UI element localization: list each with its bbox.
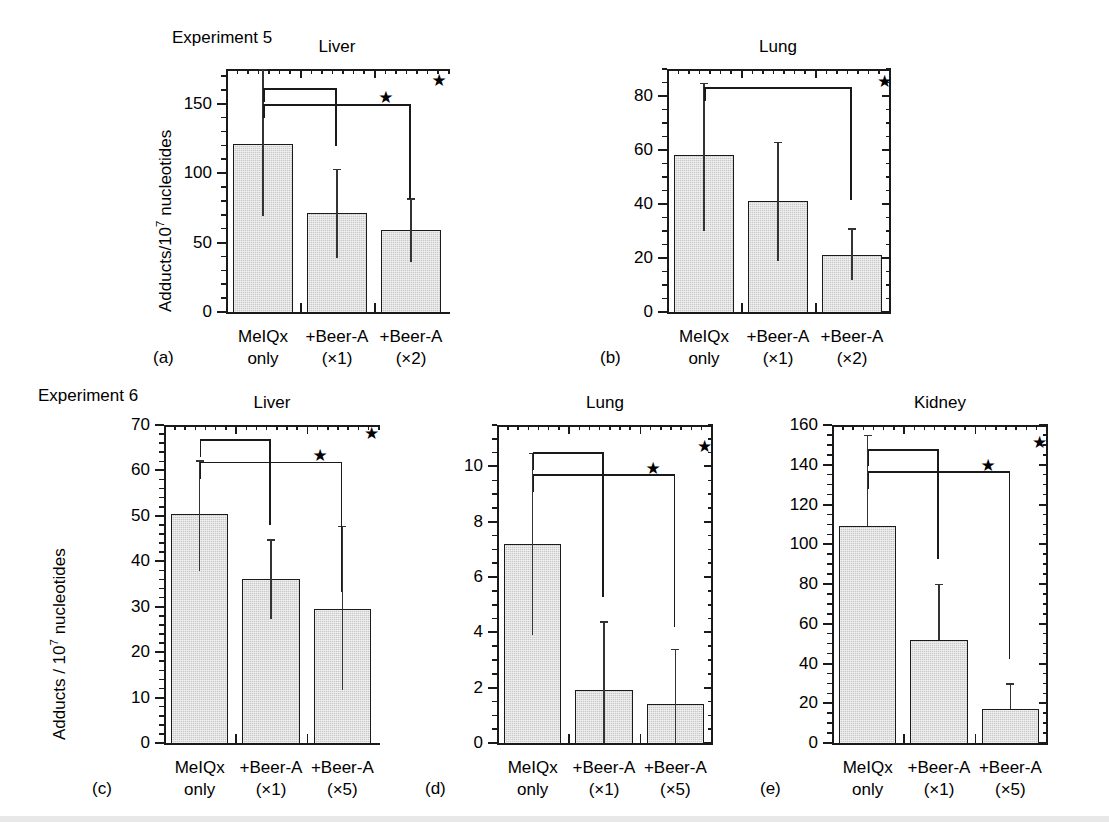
significance-bracket-right-drop [1009,471,1011,659]
y-tick-label: 6 [474,567,483,587]
significance-star: ★ [697,437,712,454]
x-tick-major [300,303,302,312]
top-tick-minor [427,69,429,74]
y-tick-label: 0 [644,302,653,322]
y-tick-minor [159,579,164,581]
error-bar-cap [774,142,782,143]
significance-bracket-left-tick [704,87,706,100]
x-category-label-line: (×5) [311,779,374,801]
y-tick-minor-right [1043,553,1048,555]
x-category-label-line: +Beer-A [306,326,369,348]
top-tick-minor [237,69,239,74]
y-tick-label: 0 [474,733,483,753]
y-axis-line [832,425,834,745]
y-tick-minor [159,733,164,735]
x-category-label-line: MeIQx [843,757,893,779]
error-bar [851,228,853,279]
y-tick-minor-right [886,176,891,178]
y-tick-major [488,576,497,578]
y-tick-minor [221,131,226,133]
significance-bracket-bar [533,452,604,454]
y-tick-minor [159,615,164,617]
y-tick-major [658,149,667,151]
y-axis-title-exponent: 7 [154,221,166,227]
x-category-label: +Beer-A(×1) [747,326,810,370]
x-category-label: +Beer-A(×1) [908,757,971,801]
y-tick-minor [827,553,832,555]
y-tick-major [823,543,832,545]
significance-bracket-bar [533,474,676,476]
y-tick-minor-right [1043,563,1048,565]
y-tick-label: 20 [131,642,150,662]
y-tick-minor [492,549,497,551]
x-category-label-line: MeIQx [679,326,729,348]
top-tick-minor [174,425,176,430]
y-tick-minor [492,659,497,661]
top-tick-major [568,425,570,434]
top-tick-minor [286,425,288,430]
top-tick-minor [528,425,530,430]
y-tick-major [823,623,832,625]
top-tick-minor [773,69,775,74]
y-tick-minor [662,163,667,165]
top-tick-minor [266,425,268,430]
error-bar [675,649,677,743]
x-category-label: +Beer-A(×2) [380,326,443,370]
y-tick-minor [827,444,832,446]
top-tick-minor [538,425,540,430]
x-tick-major [374,303,376,312]
y-tick-minor [221,256,226,258]
y-tick-minor [159,524,164,526]
top-tick-minor [857,69,859,74]
y-tick-label: 8 [474,512,483,532]
significance-bracket-left-tick [868,471,870,488]
y-tick-label: 10 [464,456,483,476]
error-bar [1010,683,1012,709]
significance-bracket-right-drop [674,474,676,627]
y-axis-title-row1: Adducts/107 nucleotides [154,130,176,312]
y-tick-minor-right [1043,613,1048,615]
significance-bracket-right-drop [937,449,939,559]
y-tick-minor [221,158,226,160]
top-tick-minor [311,69,313,74]
y-tick-minor [492,493,497,495]
panel-letter-label: (d) [425,779,446,799]
y-tick-minor [221,89,226,91]
top-tick-minor [246,425,248,430]
y-tick-minor [492,590,497,592]
x-category-label-line: (×2) [821,348,884,370]
y-tick-major [658,257,667,259]
significance-bracket-bar [704,87,852,89]
x-category-label: MeIQxonly [679,326,729,370]
top-tick-minor [847,69,849,74]
y-tick-label: 120 [790,495,818,515]
y-tick-minor [492,480,497,482]
significance-bracket-bar [868,471,1011,473]
x-category-label: +Beer-A(×1) [306,326,369,370]
bar [982,709,1039,744]
top-tick-minor [358,425,360,430]
y-tick-label: 160 [790,415,818,435]
y-tick-major-right [1039,464,1048,466]
y-tick-label: 100 [184,163,212,183]
error-bar-cap [338,526,346,527]
top-tick-minor [395,69,397,74]
top-tick-minor [783,69,785,74]
y-tick-minor-right [1043,514,1048,516]
y-tick-label: 50 [193,233,212,253]
y-tick-label: 100 [790,534,818,554]
x-category-label-line: +Beer-A [821,326,884,348]
top-tick-minor [678,69,680,74]
y-tick-label: 20 [799,693,818,713]
y-tick-major [823,663,832,665]
top-tick-minor [164,425,166,430]
y-tick-label: 140 [790,455,818,475]
top-tick-minor [279,69,281,74]
y-tick-minor [827,653,832,655]
x-category-label: +Beer-A(×5) [979,757,1042,801]
y-tick-minor-right [886,298,891,300]
significance-bracket-bar [868,449,939,451]
y-tick-minor [159,506,164,508]
x-category-label-line: (×1) [747,348,810,370]
top-tick-minor [517,425,519,430]
